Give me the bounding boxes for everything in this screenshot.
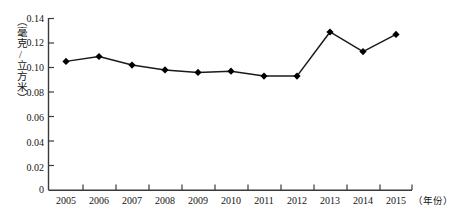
x-tick-label-2007: 2007 bbox=[122, 196, 142, 206]
y-axis-ticks bbox=[49, 19, 55, 166]
data-point-2005 bbox=[62, 58, 69, 65]
x-tick-label-2008: 2008 bbox=[155, 196, 175, 206]
data-point-2010 bbox=[227, 68, 234, 75]
data-point-2008 bbox=[161, 66, 168, 73]
x-tick-label-2015: 2015 bbox=[386, 196, 406, 206]
x-axis-unit-label: （年份） bbox=[413, 196, 452, 206]
data-markers bbox=[62, 28, 399, 79]
x-tick-label-2005: 2005 bbox=[56, 196, 76, 206]
x-tick-label-2006: 2006 bbox=[89, 196, 109, 206]
data-point-2007 bbox=[128, 61, 135, 68]
line-chart: （毫克/立方米） 0.14 0.12 0.10 0.08 0.06 0.04 0… bbox=[0, 0, 452, 222]
data-point-2006 bbox=[95, 53, 102, 60]
data-point-2014 bbox=[359, 48, 366, 55]
x-tick-label-2009: 2009 bbox=[188, 196, 208, 206]
data-point-2015 bbox=[392, 31, 399, 38]
x-tick-label-2013: 2013 bbox=[320, 196, 340, 206]
data-point-2011 bbox=[260, 72, 267, 79]
plot-area bbox=[0, 0, 452, 222]
x-tick-label-2011: 2011 bbox=[254, 196, 274, 206]
x-tick-label-2010: 2010 bbox=[221, 196, 241, 206]
x-axis-ticks bbox=[83, 185, 412, 191]
data-point-2009 bbox=[194, 69, 201, 76]
x-tick-label-2014: 2014 bbox=[353, 196, 373, 206]
x-tick-label-2012: 2012 bbox=[287, 196, 307, 206]
